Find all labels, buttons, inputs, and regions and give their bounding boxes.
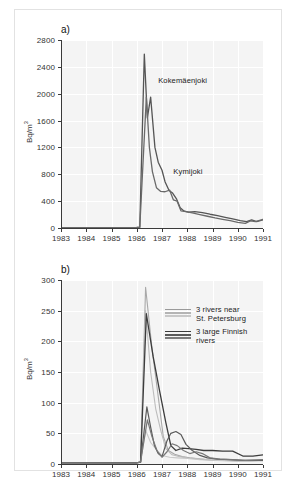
chart-panel-b: b) Bq/m3 0501001502002503001983198419851… [15,258,281,482]
legend-label-line: rivers [196,336,247,345]
legend-label: 3 large Finnishrivers [196,327,247,346]
x-tick-label: 1983 [52,234,70,243]
legend-swatch [165,331,191,333]
x-tick-label: 1985 [102,470,120,479]
x-tick [213,465,214,468]
panel-a-plot: 0400800120016002000240028001983198419851… [61,40,263,228]
y-tick [58,341,61,342]
x-tick [187,465,188,468]
x-tick-label: 1991 [254,470,272,479]
y-tick-label: 400 [21,197,55,206]
y-tick-label: 150 [21,368,55,377]
x-tick [238,465,239,468]
panel-a-plot-area [61,40,263,228]
x-tick [213,229,214,232]
x-tick-label: 1986 [128,470,146,479]
y-tick [58,433,61,434]
y-tick [58,311,61,312]
x-tick [238,229,239,232]
y-tick-label: 2000 [21,89,55,98]
series-line [61,97,263,228]
y-tick-label: 250 [21,306,55,315]
x-tick [112,229,113,232]
y-tick [58,280,61,281]
y-tick-label: 1200 [21,143,55,152]
x-tick [137,229,138,232]
y-tick-label: 0 [21,460,55,469]
panel-b-plot: 0501001502002503001983198419851986198719… [61,280,263,464]
x-tick [112,465,113,468]
legend-label: 3 rivers nearSt. Petersburg [196,305,246,324]
y-tick-label: 2800 [21,36,55,45]
y-tick [58,67,61,68]
series-annotation: Kokemäenjoki [158,76,207,85]
legend-swatch [165,312,191,314]
x-tick-label: 1987 [153,234,171,243]
legend-swatch [165,334,191,336]
figure-frame: a) Bq/m3 0400800120016002000240028001983… [14,9,282,471]
x-tick-label: 1983 [52,470,70,479]
y-tick-label: 2400 [21,62,55,71]
y-tick [58,94,61,95]
x-tick [61,465,62,468]
x-tick [137,465,138,468]
x-tick-label: 1989 [203,470,221,479]
y-tick [58,201,61,202]
y-tick-label: 800 [21,170,55,179]
panel-a-tag: a) [61,24,70,35]
panel-b-y-axis [61,280,62,465]
legend-label-line: 3 large Finnish [196,327,247,336]
x-tick-label: 1987 [153,470,171,479]
legend-swatch [165,315,191,317]
x-tick [263,465,264,468]
x-tick-label: 1984 [77,470,95,479]
y-tick-label: 200 [21,337,55,346]
y-tick-label: 50 [21,429,55,438]
y-tick-label: 100 [21,398,55,407]
legend-label-line: St. Petersburg [196,314,246,323]
y-tick [58,174,61,175]
panel-a-series-layer [61,40,263,228]
panel-a-y-axis [61,40,62,229]
x-tick [86,229,87,232]
figure-root: a) Bq/m3 0400800120016002000240028001983… [0,0,297,482]
y-tick [58,40,61,41]
y-tick [58,147,61,148]
x-tick-label: 1990 [229,470,247,479]
x-tick-label: 1989 [203,234,221,243]
y-tick-label: 1600 [21,116,55,125]
y-tick [58,121,61,122]
y-tick-label: 0 [21,224,55,233]
x-tick-label: 1990 [229,234,247,243]
x-tick-label: 1991 [254,234,272,243]
y-tick-label: 300 [21,276,55,285]
legend-label-line: 3 rivers near [196,305,246,314]
chart-panel-a: a) Bq/m3 0400800120016002000240028001983… [15,18,281,250]
x-tick [187,229,188,232]
legend-swatch [165,337,191,339]
y-tick [58,403,61,404]
x-tick-label: 1986 [128,234,146,243]
x-tick [263,229,264,232]
x-tick [61,229,62,232]
y-tick [58,372,61,373]
panel-b-tag: b) [61,264,70,275]
legend-swatch [165,309,191,311]
x-tick-label: 1988 [178,234,196,243]
x-tick-label: 1984 [77,234,95,243]
series-annotation: Kymijoki [173,167,202,176]
x-tick [86,465,87,468]
x-tick [162,465,163,468]
x-tick-label: 1988 [178,470,196,479]
x-tick [162,229,163,232]
x-tick-label: 1985 [102,234,120,243]
